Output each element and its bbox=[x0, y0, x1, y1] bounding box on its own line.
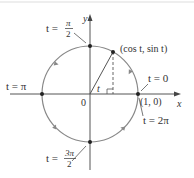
point-cos-sin bbox=[111, 50, 115, 54]
angle-label: t bbox=[97, 83, 100, 94]
t-zero-label: t = 0 bbox=[148, 72, 169, 84]
t-three-pi-half-prefix: t = bbox=[46, 152, 58, 164]
direction-arrow-icon bbox=[52, 61, 58, 67]
radius-line bbox=[90, 52, 113, 94]
point-left bbox=[40, 92, 44, 96]
intercept-label: (1, 0) bbox=[140, 96, 162, 108]
t-three-pi-half-den: 2 bbox=[67, 159, 72, 169]
y-axis-arrow-icon bbox=[88, 14, 93, 21]
t-pi-half-prefix: t = bbox=[46, 22, 58, 34]
t-two-pi-label: t = 2π bbox=[143, 114, 169, 126]
unit-circle-diagram: y x 0 (cos t, sin t) t (1, 0) t = 0 t = … bbox=[0, 0, 194, 178]
pointer-line bbox=[141, 84, 148, 91]
t-pi-label: t = π bbox=[6, 80, 27, 92]
point-bottom bbox=[88, 140, 92, 144]
point-label: (cos t, sin t) bbox=[120, 43, 167, 55]
t-pi-half-num: π bbox=[66, 18, 71, 28]
x-axis-arrow-icon bbox=[174, 92, 181, 97]
x-axis-label: x bbox=[176, 98, 182, 109]
right-angle-marker bbox=[107, 89, 113, 94]
y-axis-label: y bbox=[82, 13, 88, 24]
origin-label: 0 bbox=[81, 97, 86, 108]
t-three-pi-half-num: 3π bbox=[64, 148, 75, 158]
pointer-line bbox=[74, 33, 86, 43]
direction-arrow-icon bbox=[126, 68, 132, 74]
point-top bbox=[88, 44, 92, 48]
t-pi-half-den: 2 bbox=[66, 29, 71, 39]
